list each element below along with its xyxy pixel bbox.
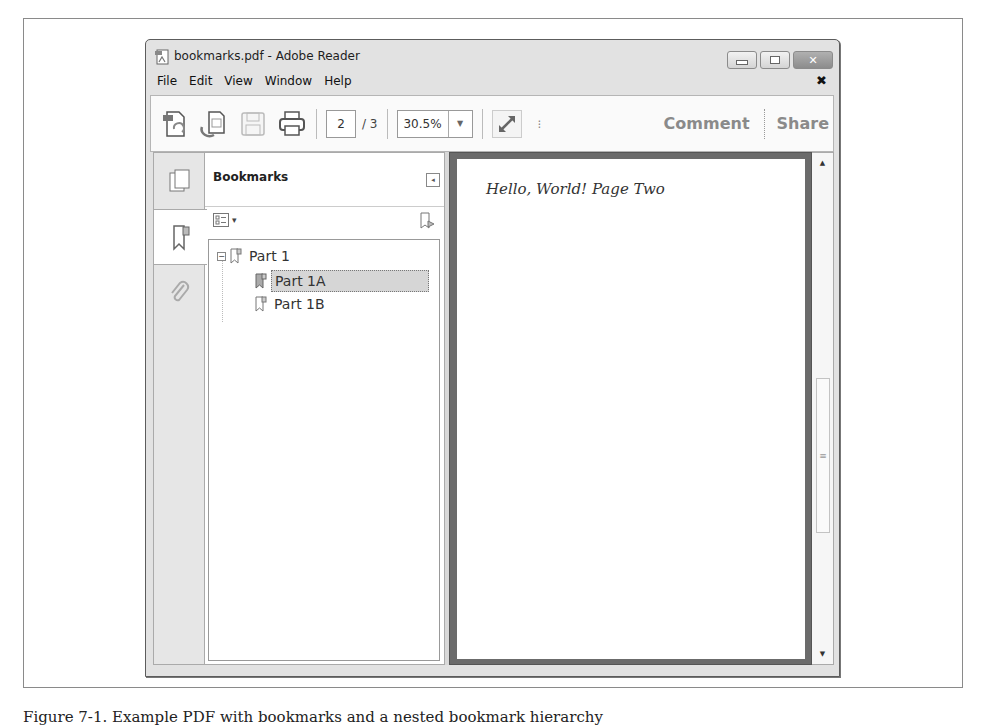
bookmark-options-button[interactable]: ▾ — [213, 213, 237, 227]
document-view[interactable]: Hello, World! Page Two — [449, 152, 812, 665]
adobe-reader-window: bookmarks.pdf - Adobe Reader ✕ File Edit… — [145, 39, 840, 677]
share-button[interactable]: Share — [765, 114, 833, 133]
save-button[interactable] — [238, 109, 268, 139]
comment-button[interactable]: Comment — [650, 114, 764, 133]
tree-item-part-1b[interactable]: Part 1B — [255, 294, 328, 314]
menu-file[interactable]: File — [151, 74, 183, 88]
total-pages: / 3 — [362, 117, 378, 131]
export-pdf-icon — [199, 109, 229, 139]
collapse-panel-button[interactable]: ◂ — [426, 173, 440, 187]
zoom-dropdown-icon[interactable]: ▼ — [448, 111, 472, 137]
navigation-rail — [153, 152, 205, 665]
minimize-button[interactable] — [727, 51, 757, 69]
bookmark-label: Part 1 — [246, 246, 293, 266]
scroll-up-arrow-icon[interactable]: ▲ — [812, 159, 833, 167]
menu-window[interactable]: Window — [259, 74, 318, 88]
bookmarks-panel: Bookmarks ◂ ▾ — [205, 152, 445, 665]
new-bookmark-button[interactable] — [418, 212, 436, 234]
bookmark-label-selected: Part 1A — [271, 270, 429, 292]
save-icon — [238, 109, 268, 139]
bookmarks-panel-title: Bookmarks — [213, 170, 288, 184]
grip-icon: ≡ — [819, 451, 827, 461]
minimize-icon — [736, 60, 748, 65]
title-bar[interactable]: bookmarks.pdf - Adobe Reader ✕ — [146, 40, 839, 70]
menu-help[interactable]: Help — [318, 74, 357, 88]
close-document-button[interactable]: ✖ — [816, 73, 827, 88]
scrollbar-thumb[interactable]: ≡ — [816, 378, 830, 533]
bookmark-icon — [255, 296, 267, 312]
create-pdf-button[interactable] — [160, 109, 190, 139]
page-thumbnails-tab[interactable] — [154, 153, 206, 209]
bookmark-icon — [255, 273, 267, 289]
close-icon: ✕ — [794, 52, 832, 68]
scroll-down-arrow-icon[interactable]: ▼ — [812, 650, 833, 658]
fit-page-button[interactable] — [492, 110, 522, 138]
figure-caption: Figure 7-1. Example PDF with bookmarks a… — [23, 708, 603, 726]
tree-item-part-1[interactable]: − Part 1 — [217, 246, 293, 266]
more-tools-icon[interactable]: ⁝ — [538, 117, 542, 131]
bookmarks-tab[interactable] — [154, 209, 207, 265]
current-page-input[interactable]: 2 — [326, 110, 356, 138]
page-thumbnails-icon — [168, 168, 192, 194]
bookmark-icon — [230, 248, 242, 264]
close-window-button[interactable]: ✕ — [793, 51, 833, 69]
menu-bar: File Edit View Window Help — [146, 70, 839, 92]
expand-arrows-icon — [497, 114, 517, 134]
main-toolbar: 2 / 3 30.5% ▼ ⁝ Comment Share — [150, 95, 834, 152]
bookmarks-panel-header: Bookmarks ◂ — [205, 153, 444, 207]
print-button[interactable] — [277, 109, 307, 139]
options-dropdown-icon: ▾ — [232, 215, 237, 225]
adobe-reader-app-icon — [154, 49, 170, 65]
paperclip-icon — [169, 280, 191, 306]
attachments-tab[interactable] — [154, 265, 206, 321]
toolbar-divider — [482, 109, 483, 139]
export-pdf-button[interactable] — [199, 109, 229, 139]
bookmark-tree: − Part 1 Part 1A Part 1B — [208, 239, 440, 661]
toolbar-divider — [316, 109, 317, 139]
zoom-value-input[interactable]: 30.5% — [398, 111, 448, 137]
bookmarks-toolbar: ▾ — [205, 207, 444, 235]
zoom-selector[interactable]: 30.5% ▼ — [397, 110, 473, 138]
page-content-text: Hello, World! Page Two — [486, 180, 665, 198]
create-pdf-icon — [160, 109, 190, 139]
bookmark-ribbon-icon — [170, 223, 192, 251]
tree-connector — [222, 260, 223, 322]
toolbar-divider — [387, 109, 388, 139]
window-title: bookmarks.pdf - Adobe Reader — [174, 49, 360, 63]
options-list-icon — [213, 213, 229, 227]
pdf-page: Hello, World! Page Two — [457, 159, 805, 659]
vertical-scrollbar[interactable]: ▲ ≡ ▼ — [812, 152, 834, 665]
print-icon — [277, 109, 307, 139]
bookmark-label: Part 1B — [271, 294, 328, 314]
maximize-icon — [770, 56, 780, 64]
collapse-toggle-icon[interactable]: − — [217, 252, 226, 261]
maximize-button[interactable] — [760, 51, 790, 69]
tree-item-part-1a[interactable]: Part 1A — [255, 270, 429, 292]
menu-view[interactable]: View — [218, 74, 258, 88]
new-bookmark-icon — [418, 212, 436, 230]
menu-edit[interactable]: Edit — [183, 74, 218, 88]
